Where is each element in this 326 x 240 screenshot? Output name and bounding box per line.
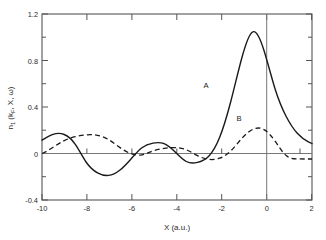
x-tick-label--8: -8 bbox=[84, 204, 91, 213]
chart-page: 1.2 0.8 0.4 0 -0.4 -10 -8 -6 -4 -2 0 2 X… bbox=[0, 0, 326, 240]
x-tick-label-0: 0 bbox=[265, 204, 269, 213]
y-tick-label-0.4: 0.4 bbox=[28, 103, 38, 112]
y-tick-label-0: 0 bbox=[34, 150, 38, 159]
curve-label-b: B bbox=[236, 114, 241, 123]
x-tick-label--6: -6 bbox=[129, 204, 136, 213]
curve-label-a: A bbox=[203, 81, 209, 90]
x-axis-title: X (a.u.) bbox=[164, 223, 191, 232]
series-b-curve bbox=[42, 128, 312, 160]
svg-text:n1 (kF, X, ω): n1 (kF, X, ω) bbox=[6, 86, 16, 129]
zero-axis-ticks bbox=[87, 149, 300, 154]
plot-frame bbox=[42, 14, 312, 200]
y-tick-label-0.8: 0.8 bbox=[28, 57, 38, 66]
x-tick-label--10: -10 bbox=[37, 204, 48, 213]
x-tick-label-2: 2 bbox=[310, 204, 314, 213]
y-axis-major-ticks bbox=[42, 14, 312, 200]
y-axis-title: n1 (kF, X, ω) bbox=[6, 86, 16, 129]
x-axis-major-ticks bbox=[42, 14, 312, 200]
line-chart: 1.2 0.8 0.4 0 -0.4 -10 -8 -6 -4 -2 0 2 X… bbox=[0, 0, 326, 240]
y-axis-title-tail: , X, ω) bbox=[6, 86, 15, 109]
x-tick-label--4: -4 bbox=[174, 204, 181, 213]
x-tick-label--2: -2 bbox=[218, 204, 225, 213]
y-tick-label-1.2: 1.2 bbox=[28, 10, 38, 19]
